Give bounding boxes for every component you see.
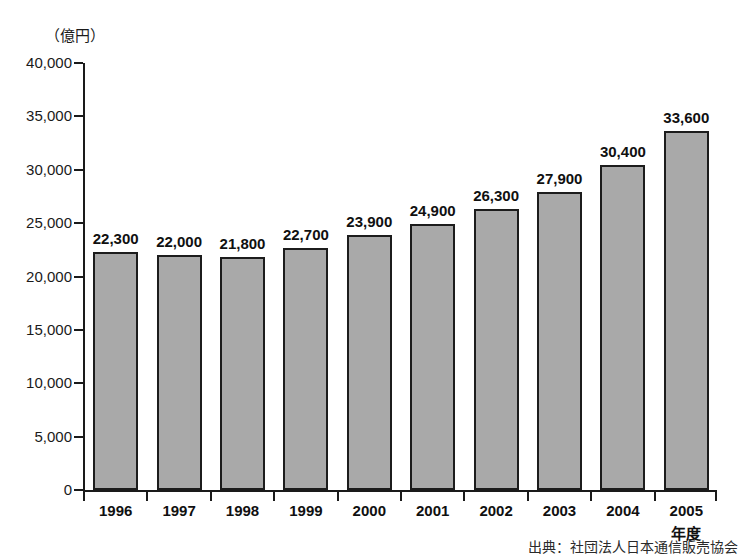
y-axis-tick-label: 5,000 <box>34 428 72 445</box>
y-axis-tick <box>74 489 83 491</box>
y-axis-tick-label: 15,000 <box>26 321 72 338</box>
bar-value-label: 26,300 <box>451 187 541 204</box>
x-axis-start-cap <box>83 492 85 501</box>
source-note: 出典：社団法人日本通信販売協会 <box>0 536 738 556</box>
bar <box>664 131 709 490</box>
y-axis-tick-label: 25,000 <box>26 214 72 231</box>
x-axis-tick-label: 2005 <box>641 502 731 519</box>
y-axis-tick <box>74 436 83 438</box>
bar <box>410 224 455 490</box>
y-axis-tick-label: 35,000 <box>26 107 72 124</box>
y-axis-tick-label: 40,000 <box>26 54 72 71</box>
bar <box>283 248 328 490</box>
bar-value-label: 33,600 <box>641 109 731 126</box>
y-axis-tick <box>74 276 83 278</box>
bar-value-label: 24,900 <box>388 202 478 219</box>
y-axis-tick-label: 20,000 <box>26 268 72 285</box>
y-axis-tick <box>74 382 83 384</box>
x-axis-tick <box>273 492 275 501</box>
x-axis-tick <box>337 492 339 501</box>
bar <box>93 252 138 490</box>
bar-value-label: 27,900 <box>515 170 605 187</box>
x-axis-end-cap <box>715 492 717 501</box>
x-axis-tick <box>400 492 402 501</box>
bar <box>537 192 582 490</box>
y-axis-tick <box>74 329 83 331</box>
bar <box>600 165 645 490</box>
y-axis-tick <box>74 222 83 224</box>
y-axis-tick <box>74 62 83 64</box>
bar-value-label: 30,400 <box>578 143 668 160</box>
y-axis-tick-label: 10,000 <box>26 374 72 391</box>
bar <box>347 235 392 490</box>
x-axis-tick <box>146 492 148 501</box>
y-axis-tick-label-column: 05,00010,00015,00020,00025,00030,00035,0… <box>0 0 72 553</box>
y-axis-tick-label: 0 <box>64 481 72 498</box>
bar <box>220 257 265 490</box>
x-axis-tick <box>527 492 529 501</box>
bar <box>157 255 202 490</box>
y-axis-tick <box>74 115 83 117</box>
y-axis-tick-label: 30,000 <box>26 161 72 178</box>
bar <box>474 209 519 490</box>
x-axis-tick <box>210 492 212 501</box>
y-axis-tick <box>74 169 83 171</box>
plot-area: 22,30022,00021,80022,70023,90024,90026,3… <box>83 63 717 491</box>
x-axis-tick <box>463 492 465 501</box>
x-axis-tick <box>590 492 592 501</box>
y-axis-line <box>83 63 85 492</box>
x-axis-tick <box>654 492 656 501</box>
